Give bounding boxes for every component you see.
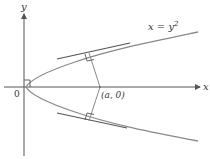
- origin-label: 0: [14, 89, 20, 99]
- x-axis-label: x: [203, 81, 209, 92]
- point-a-label: (a, 0): [101, 90, 125, 100]
- point-a-marker: [99, 86, 101, 88]
- upper-normal-line: [89, 53, 100, 87]
- lower-tangent-line: [57, 113, 127, 128]
- parabola-normals-diagram: y x 0 x = y2 (a, 0): [0, 0, 210, 159]
- curve-equation-label: x = y2: [148, 20, 179, 32]
- y-axis-label: y: [20, 1, 27, 12]
- lower-normal-line: [89, 87, 100, 121]
